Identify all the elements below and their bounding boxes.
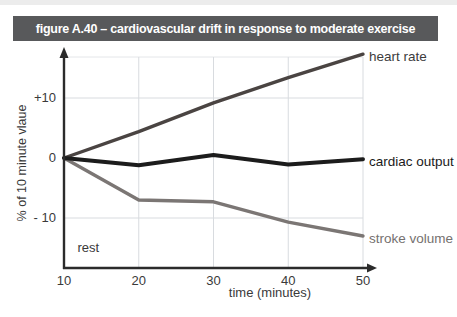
y-tick-label: +10: [16, 91, 56, 105]
series-label-cardiac-output: cardiac output: [369, 155, 454, 169]
x-tick-label: 40: [273, 274, 303, 288]
x-tick-label: 10: [49, 274, 79, 288]
series-label-stroke-volume: stroke volume: [369, 232, 453, 246]
series-label-heart-rate: heart rate: [369, 50, 427, 64]
y-tick-label: - 10: [16, 211, 56, 225]
y-axis-arrowhead: [60, 47, 69, 58]
annotation-rest: rest: [77, 241, 99, 255]
x-tick-label: 50: [348, 274, 378, 288]
y-tick-label: 0: [16, 151, 56, 165]
x-tick-label: 30: [199, 274, 229, 288]
x-tick-label: 20: [124, 274, 154, 288]
x-axis-arrowhead: [367, 264, 377, 273]
